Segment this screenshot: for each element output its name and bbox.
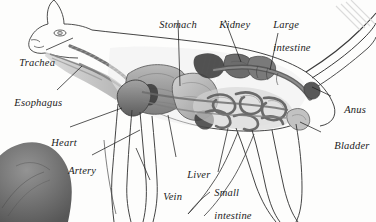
label-vein: Vein <box>152 179 182 214</box>
label-large-intestine-line1: Large <box>273 19 299 30</box>
label-anus: Anus <box>333 92 366 127</box>
label-small-intestine-line2: intestine <box>214 210 251 221</box>
label-esophagus-text: Esophagus <box>14 97 62 108</box>
label-trachea: Trachea <box>8 45 55 80</box>
label-vein-text: Vein <box>163 191 182 202</box>
label-artery: Artery <box>57 153 96 188</box>
label-large-intestine: Large intestine <box>262 7 311 65</box>
label-stomach: Stomach <box>148 7 197 42</box>
label-anus-text: Anus <box>344 104 366 115</box>
label-large-intestine-line2: intestine <box>273 42 310 53</box>
label-artery-text: Artery <box>68 165 96 176</box>
label-heart-text: Heart <box>51 137 77 148</box>
label-bladder-text: Bladder <box>334 140 369 151</box>
label-small-intestine: Small intestine <box>203 175 252 222</box>
label-small-intestine-line1: Small <box>214 187 239 198</box>
label-esophagus: Esophagus <box>3 85 62 120</box>
label-stomach-text: Stomach <box>159 19 197 30</box>
label-kidney-text: Kidney <box>219 19 250 30</box>
label-kidney: Kidney <box>208 7 250 42</box>
label-trachea-text: Trachea <box>19 57 55 68</box>
label-bladder: Bladder <box>323 128 370 163</box>
anatomy-figure: Stomach Kidney Large intestine Trachea E… <box>0 0 376 222</box>
